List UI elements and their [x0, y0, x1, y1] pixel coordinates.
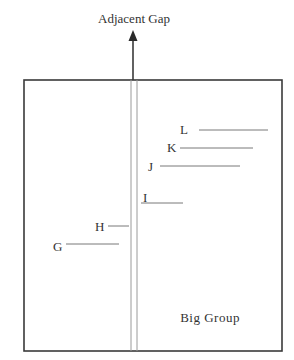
marker-k: K: [167, 140, 253, 155]
big-group-label: Big Group: [180, 310, 240, 325]
marker-label: K: [167, 140, 177, 155]
arrow-up-icon: [129, 30, 138, 80]
marker-j: J: [148, 159, 240, 174]
big-group-box: [24, 80, 282, 351]
adjacent-gap-label: Adjacent Gap: [98, 11, 170, 26]
marker-h: H: [95, 219, 129, 234]
adjacent-gap-diagram: Adjacent Gap LKJIHG Big Group: [0, 0, 294, 360]
marker-list: LKJIHG: [53, 122, 268, 254]
marker-l: L: [180, 122, 268, 137]
diagram-canvas: Adjacent Gap LKJIHG Big Group: [0, 0, 294, 360]
marker-label: L: [180, 122, 188, 137]
marker-label: J: [148, 159, 153, 174]
marker-label: G: [53, 239, 62, 254]
marker-label: H: [95, 219, 104, 234]
gap-channel-lines: [131, 80, 137, 351]
marker-i: I: [141, 190, 183, 205]
marker-g: G: [53, 239, 119, 254]
